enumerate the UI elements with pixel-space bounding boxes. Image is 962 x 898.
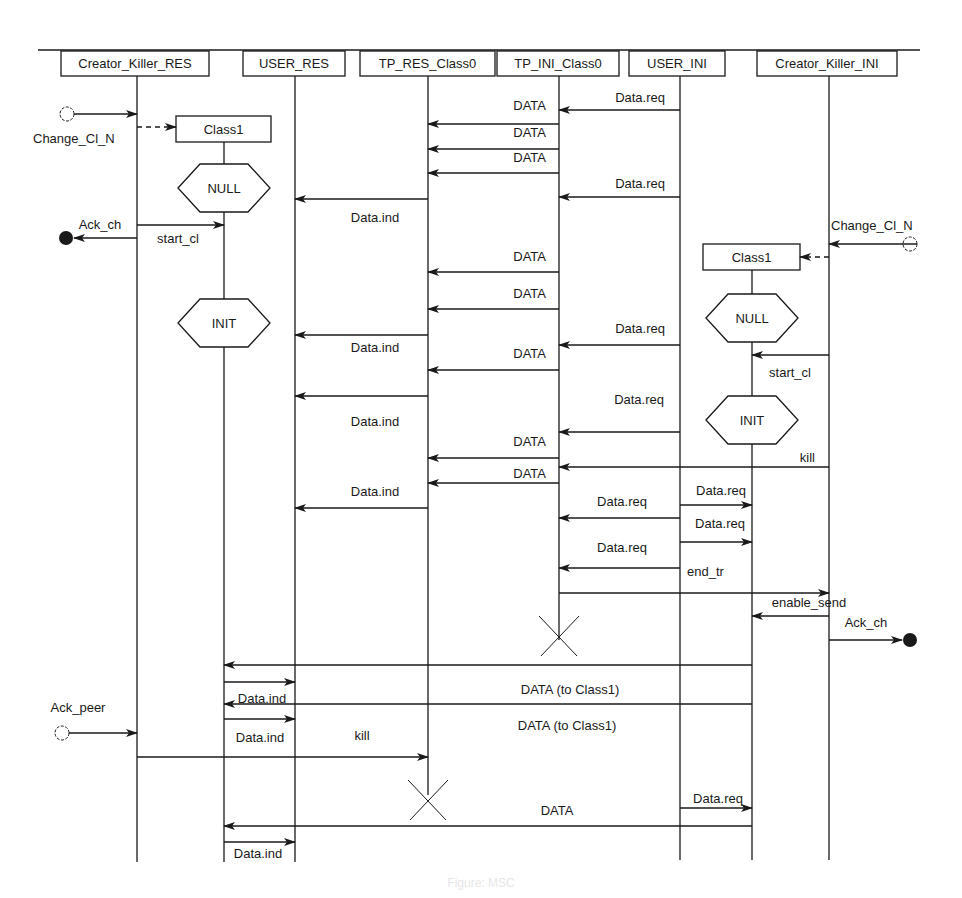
message: Data.ind (295, 484, 428, 508)
message: Data.ind (295, 396, 428, 429)
message-label: Data.ind (351, 210, 399, 225)
message-label: Data.req (693, 791, 743, 806)
instance-ck_ini: Creator_Killer_INI (757, 51, 897, 76)
created-instance-class1_ini: Class1 (703, 244, 800, 270)
message: kill (559, 450, 829, 467)
message: DATA (428, 466, 559, 483)
message-label: Data.req (615, 90, 665, 105)
gate-output: Ack_ch (829, 615, 917, 647)
message: DATA (428, 150, 559, 173)
message-label: Data.ind (351, 414, 399, 429)
message-label: DATA (513, 286, 546, 301)
state-label: INIT (212, 316, 237, 331)
message-label: DATA (513, 125, 546, 140)
output-gate-dot-icon (903, 633, 917, 647)
message: Data.req (559, 321, 680, 345)
message-label: Data.ind (234, 846, 282, 861)
message: DATA (428, 98, 559, 124)
message: Data.req (680, 516, 752, 542)
message-label: Data.ind (351, 484, 399, 499)
state-init: INIT (178, 299, 270, 347)
message-label: start_cl (769, 365, 811, 380)
state-null: NULL (706, 294, 798, 342)
stop-stroke (410, 780, 448, 820)
message-label: Data.req (615, 321, 665, 336)
input-gate-circle-icon (55, 726, 69, 740)
gate-label: Change_Cl_N (33, 131, 115, 146)
instance-label: TP_RES_Class0 (379, 56, 477, 71)
gate-input: Ack_peer (51, 700, 137, 740)
message: start_cl (752, 355, 829, 380)
message: end_tr (687, 564, 725, 579)
figure-caption: Figure: MSC (0, 876, 962, 890)
message-label: Data.ind (236, 730, 284, 745)
state-label: NULL (735, 311, 768, 326)
gate-label: Ack_ch (79, 217, 122, 232)
output-gate-dot-icon (59, 231, 73, 245)
instance-ck_res: Creator_Killer_RES (61, 51, 209, 76)
message: DATA (224, 803, 752, 826)
gate-label: Ack_ch (845, 615, 888, 630)
instance-headers: Creator_Killer_RESUSER_RESTP_RES_Class0T… (61, 51, 897, 76)
message-label: DATA (to Class1) (521, 682, 619, 697)
message-label: enable_send (772, 595, 846, 610)
state-symbols: NULLINITNULLINIT (178, 164, 798, 444)
state-label: INIT (740, 413, 765, 428)
message-label: DATA (513, 249, 546, 264)
message-label: DATA (to Class1) (518, 718, 616, 733)
instance-tp_res: TP_RES_Class0 (360, 51, 495, 76)
instance-label: USER_INI (647, 56, 707, 71)
created-instance-label: Class1 (732, 250, 772, 265)
message: Data.req (559, 176, 680, 197)
message-label: Data.req (597, 494, 647, 509)
message-label: Data.req (696, 483, 746, 498)
message-label: kill (800, 450, 815, 465)
created-instance-class1_res: Class1 (176, 116, 271, 142)
instance-label: Creator_Killer_RES (78, 56, 192, 71)
gate-input: Change_Cl_N (33, 107, 137, 146)
message-label: Data.req (614, 392, 664, 407)
state-null: NULL (178, 164, 270, 212)
state-init: INIT (706, 396, 798, 444)
message: DATA (428, 125, 559, 149)
gate-label: Change_Cl_N (831, 218, 913, 233)
message: DATA (428, 434, 559, 458)
message: DATA (to Class1) (518, 718, 616, 733)
stop-stroke (541, 616, 579, 656)
message: Data.req (559, 494, 680, 518)
message-label: end_tr (687, 564, 725, 579)
message-label: Data.ind (351, 340, 399, 355)
message: Data.ind (295, 335, 428, 355)
message: start_cl (137, 225, 224, 246)
instance-label: Creator_Killer_INI (775, 56, 878, 71)
instance-label: USER_RES (259, 56, 329, 71)
message: DATA (428, 286, 559, 309)
state-label: NULL (207, 181, 240, 196)
message: Data.ind (234, 846, 282, 861)
message: Data.req (680, 791, 752, 808)
input-gate-circle-icon (60, 107, 74, 121)
message: Data.req (559, 540, 680, 568)
gate-input: Change_Cl_N (829, 218, 917, 251)
message: Data.req (559, 90, 680, 110)
stop-stroke (408, 780, 446, 820)
message-label: DATA (513, 98, 546, 113)
message: DATA (428, 249, 559, 272)
message: DATA (to Class1) (521, 682, 619, 697)
sequence-diagram: Creator_Killer_RESUSER_RESTP_RES_Class0T… (0, 0, 962, 898)
message-label: kill (354, 728, 369, 743)
message-label: DATA (541, 803, 574, 818)
gate-label: Ack_peer (51, 700, 107, 715)
message-label: DATA (513, 346, 546, 361)
stop-stroke (539, 616, 577, 656)
message-label: Data.req (597, 540, 647, 555)
message: DATA (428, 346, 559, 370)
message-label: DATA (513, 150, 546, 165)
instance-user_ini: USER_INI (629, 51, 725, 76)
message-label: DATA (513, 434, 546, 449)
message-label: start_cl (157, 231, 199, 246)
instance-user_res: USER_RES (243, 51, 345, 76)
message-label: Data.req (615, 176, 665, 191)
message-label: DATA (513, 466, 546, 481)
created-instance-label: Class1 (204, 122, 244, 137)
